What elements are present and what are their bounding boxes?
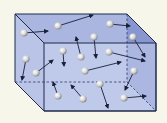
molecule-sphere — [120, 94, 127, 101]
molecule-sphere — [20, 29, 27, 36]
molecule-sphere — [79, 95, 86, 102]
molecule-sphere — [129, 33, 136, 40]
molecule-sphere — [106, 20, 113, 27]
molecule-sphere — [81, 67, 88, 74]
molecule-sphere — [77, 53, 84, 60]
diagram-canvas — [0, 0, 167, 123]
molecule-sphere — [59, 47, 66, 54]
molecule-sphere — [130, 67, 137, 74]
molecule-sphere — [54, 22, 61, 29]
molecule-sphere — [22, 55, 29, 62]
molecule-sphere — [54, 92, 61, 99]
molecule-sphere — [90, 33, 97, 40]
molecule-sphere — [32, 69, 39, 76]
gas-container-diagram — [0, 0, 167, 123]
molecule-sphere — [96, 80, 103, 87]
molecule-sphere — [105, 48, 112, 55]
